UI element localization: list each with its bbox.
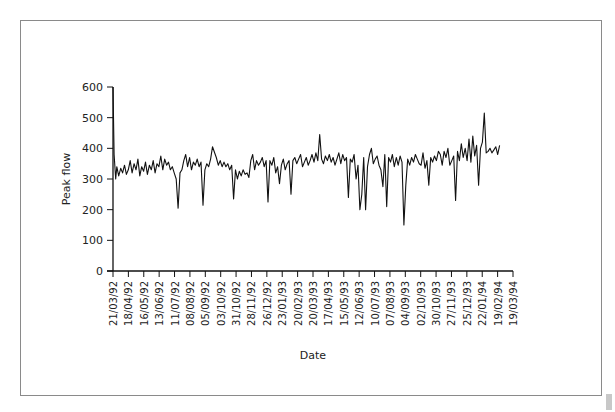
x-tick-label: 10/07/93	[370, 281, 381, 326]
y-tick-label: 200	[82, 204, 103, 217]
peak-flow-series-line	[113, 87, 500, 225]
x-tick-label: 12/06/93	[354, 281, 365, 326]
x-tick-label: 19/03/94	[508, 281, 519, 326]
y-axis-title: Peak flow	[60, 153, 73, 205]
x-tick-label: 07/08/93	[385, 281, 396, 326]
x-axis: 21/03/9218/04/9216/05/9213/06/9211/07/92…	[107, 271, 519, 326]
y-axis: 0100200300400500600	[82, 81, 113, 278]
y-tick-label: 0	[96, 265, 103, 278]
x-tick-label: 13/06/92	[154, 281, 165, 326]
x-tick-label: 17/04/93	[323, 281, 334, 326]
x-tick-label: 05/09/92	[200, 281, 211, 326]
x-tick-label: 30/10/93	[431, 281, 442, 326]
x-tick-label: 27/11/93	[446, 281, 457, 326]
y-tick-label: 500	[82, 112, 103, 125]
x-tick-label: 31/10/92	[231, 281, 242, 326]
x-tick-label: 02/10/93	[416, 281, 427, 326]
y-tick-label: 400	[82, 142, 103, 155]
x-tick-label: 23/01/93	[277, 281, 288, 326]
x-tick-label: 22/01/94	[477, 281, 488, 326]
x-tick-label: 03/10/92	[216, 281, 227, 326]
x-tick-label: 25/12/93	[462, 281, 473, 326]
x-tick-label: 16/05/92	[139, 281, 150, 326]
x-tick-label: 18/04/92	[123, 281, 134, 326]
x-tick-label: 04/09/93	[400, 281, 411, 326]
x-axis-title: Date	[300, 349, 327, 362]
x-tick-label: 08/08/92	[185, 281, 196, 326]
y-tick-label: 600	[82, 81, 103, 94]
x-tick-label: 20/03/93	[308, 281, 319, 326]
x-tick-label: 28/11/92	[246, 281, 257, 326]
x-tick-label: 19/02/94	[493, 281, 504, 326]
peak-flow-chart: 0100200300400500600 21/03/9218/04/9216/0…	[0, 0, 615, 412]
x-tick-label: 21/03/92	[108, 281, 119, 326]
y-tick-label: 100	[82, 234, 103, 247]
x-tick-label: 15/05/93	[339, 281, 350, 326]
x-tick-label: 20/02/93	[293, 281, 304, 326]
x-tick-label: 11/07/92	[170, 281, 181, 326]
y-tick-label: 300	[82, 173, 103, 186]
x-tick-label: 26/12/92	[262, 281, 273, 326]
